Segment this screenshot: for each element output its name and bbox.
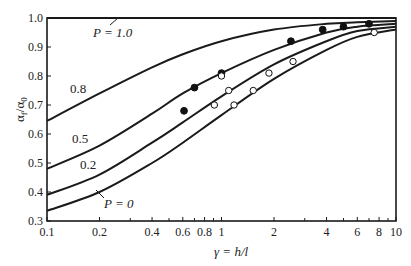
open-data-point — [290, 58, 296, 64]
x-tick-label: 0.6 — [175, 225, 190, 239]
x-tick-label: 4 — [324, 225, 330, 239]
filled-data-point — [191, 84, 198, 91]
open-data-point — [231, 102, 237, 108]
x-tick-label: 2 — [271, 225, 277, 239]
y-tick-label: 1.0 — [28, 11, 43, 25]
curve-p-0 — [47, 30, 396, 211]
filled-data-point — [340, 23, 347, 30]
x-tick-label: 0.8 — [197, 225, 212, 239]
y-tick-label: 0.4 — [28, 185, 43, 199]
y-tick-label: 0.3 — [28, 214, 43, 228]
filled-data-point — [319, 26, 326, 33]
x-tick-label: 0.2 — [92, 225, 107, 239]
filled-data-point — [366, 20, 373, 27]
y-tick-label: 0.7 — [28, 98, 43, 112]
open-data-point — [211, 102, 217, 108]
curve-label-p10: P = 1.0 — [92, 25, 133, 40]
filled-data-point — [288, 38, 295, 45]
y-axis-label: αf/α0 — [12, 97, 29, 122]
y-tick-label: 0.6 — [28, 127, 43, 141]
curve-label-05: 0.5 — [72, 131, 88, 146]
curve-0-2 — [47, 27, 396, 195]
x-tick-label: 0.4 — [145, 225, 160, 239]
open-data-point — [266, 70, 272, 76]
open-data-point — [371, 29, 377, 35]
curve-label-08: 0.8 — [70, 81, 86, 96]
open-data-point — [250, 87, 256, 93]
curve-label-02: 0.2 — [80, 157, 96, 172]
chart: 0.10.20.40.60.81246810 0.30.40.50.60.70.… — [0, 0, 411, 266]
x-axis-label: γ = h/l — [214, 244, 249, 259]
curves — [47, 18, 396, 211]
open-data-point — [226, 87, 232, 93]
curve-label-p0: P = 0 — [103, 196, 134, 211]
filled-data-point — [181, 107, 188, 114]
y-tick-label: 0.9 — [28, 40, 43, 54]
x-tick-label: 8 — [376, 225, 382, 239]
plot-frame — [47, 18, 396, 221]
y-tick-label: 0.5 — [28, 156, 43, 170]
p10-leader-line — [110, 18, 118, 25]
x-tick-label: 1 — [219, 225, 225, 239]
x-tick-label: 10 — [390, 225, 402, 239]
open-data-point — [218, 73, 224, 79]
y-tick-label: 0.8 — [28, 69, 43, 83]
x-tick-label: 6 — [354, 225, 360, 239]
